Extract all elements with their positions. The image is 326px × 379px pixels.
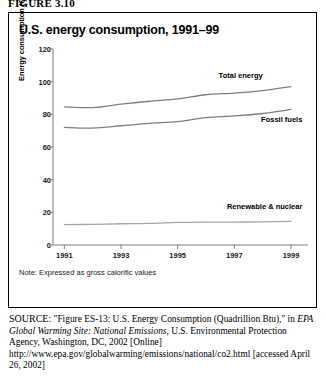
chart-note: Note: Expressed as gross calorific value… (19, 268, 156, 277)
series-label-2: Renewable & nuclear (227, 201, 302, 210)
source-part1: "Figure ES-13: U.S. Energy Consumption (… (51, 314, 297, 324)
source-prefix: SOURCE: (9, 313, 51, 324)
line-chart-svg (19, 45, 308, 260)
series-label-0: Total energy (219, 71, 263, 80)
figure-frame: U.S. energy consumption, 1991–99 Energy … (8, 12, 317, 308)
chart-title: U.S. energy consumption, 1991–99 (19, 23, 219, 37)
series-label-1: Fossil fuels (261, 115, 302, 124)
chart-plot-area: Energy consumption (QBtu) 02040608010012… (19, 45, 308, 260)
source-citation: SOURCE: "Figure ES-13: U.S. Energy Consu… (9, 313, 317, 372)
